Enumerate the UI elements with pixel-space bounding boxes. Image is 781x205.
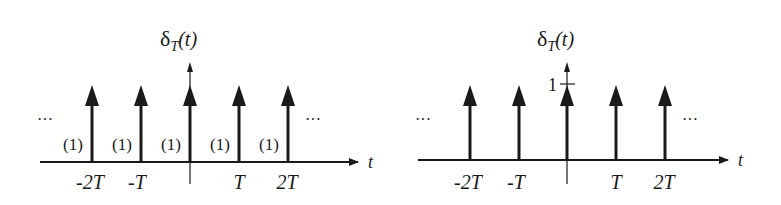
ellipsis-right-right: ···: [682, 111, 698, 128]
svg-text:2T: 2T: [276, 171, 299, 193]
impulse-train-figure: δT(t) t (1) (1) (1) (1) (1) ··· ··· -2T …: [0, 0, 781, 205]
amplitude-axis-arrow-right: [564, 62, 570, 72]
impulses-right: [463, 85, 672, 160]
svg-text:2T: 2T: [653, 171, 676, 193]
diagram-unit-impulses: δT(t) t 1 ··· ··· -2T -T T 2T: [415, 26, 744, 193]
svg-text:(1): (1): [112, 135, 132, 154]
impulse-weights-left: (1) (1) (1) (1) (1): [63, 135, 279, 154]
svg-text:-2T: -2T: [454, 171, 484, 193]
svg-text:-T: -T: [128, 171, 148, 193]
amplitude-axis-arrow-left: [187, 62, 193, 72]
svg-text:-T: -T: [507, 171, 527, 193]
axis-label-t-right: t: [738, 150, 744, 170]
axis-label-t-left: t: [368, 152, 374, 172]
ellipsis-left-left: ···: [37, 111, 53, 128]
diagram-weighted-impulses: δT(t) t (1) (1) (1) (1) (1) ··· ··· -2T …: [37, 26, 374, 193]
ellipsis-right-left: ···: [305, 111, 321, 128]
svg-text:(1): (1): [161, 135, 181, 154]
tick-labels-right: -2T -T T 2T: [454, 171, 676, 193]
svg-text:(1): (1): [210, 135, 230, 154]
svg-text:(1): (1): [63, 135, 83, 154]
svg-text:-2T: -2T: [76, 171, 106, 193]
ellipsis-left-right: ···: [415, 111, 431, 128]
title-right: δT(t): [537, 26, 574, 54]
svg-text:(1): (1): [259, 135, 279, 154]
svg-text:T: T: [610, 171, 623, 193]
tick-labels-left: -2T -T T 2T: [76, 171, 299, 193]
title-left: δT(t): [160, 26, 197, 54]
svg-text:T: T: [233, 171, 246, 193]
y-tick-label-one: 1: [548, 75, 557, 95]
